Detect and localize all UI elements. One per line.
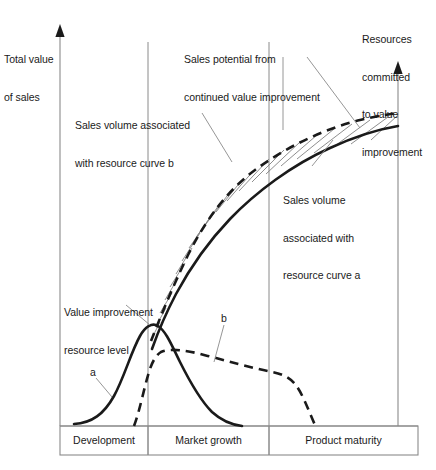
annotation-sales-volume-a-line1: Sales volume (283, 194, 360, 207)
annotation-sales-potential: Sales potential from continued value imp… (184, 28, 320, 128)
stage-label-market-growth: Market growth (148, 434, 269, 446)
annotation-sales-volume-a-line2: associated with (283, 232, 360, 245)
annotation-sales-volume-b-line2: with resource curve b (75, 157, 190, 170)
annotation-value-improvement-resource-level: Value improvement resource level (64, 281, 153, 381)
annotation-resources-committed-line2: committed (362, 71, 422, 84)
stage-label-product-maturity: Product maturity (269, 434, 418, 446)
curve-a-label: a (90, 366, 96, 379)
annotation-sales-volume-a: Sales volume associated with resource cu… (283, 169, 360, 307)
leader-curve-b (214, 325, 224, 362)
annotation-resources-committed-line3: to value (362, 108, 422, 121)
annotation-sales-potential-line2: continued value improvement (184, 91, 320, 104)
annotation-sales-potential-line1: Sales potential from (184, 53, 320, 66)
annotation-value-improvement-line1: Value improvement (64, 306, 153, 319)
curve-resource-level-b (134, 350, 315, 426)
annotation-value-improvement-line2: resource level (64, 344, 153, 357)
annotation-sales-volume-b-line1: Sales volume associated (75, 119, 190, 132)
y-axis-label-line2: of sales (4, 91, 54, 104)
y-axis-arrowhead-icon (55, 24, 64, 37)
y-axis-label: Total value of sales (4, 28, 54, 128)
annotation-resources-committed: Resources committed to value improvement (362, 8, 422, 183)
annotation-resources-committed-line4: improvement (362, 146, 422, 159)
annotation-resources-committed-line1: Resources (362, 33, 422, 46)
annotation-sales-volume-b: Sales volume associated with resource cu… (75, 94, 190, 194)
value-improvement-sales-diagram: Total value of sales Sales potential fro… (0, 0, 436, 470)
curve-b-label: b (221, 312, 227, 325)
annotation-sales-volume-a-line3: resource curve a (283, 269, 360, 282)
y-axis-label-line1: Total value (4, 53, 54, 66)
stage-label-development: Development (60, 434, 148, 446)
